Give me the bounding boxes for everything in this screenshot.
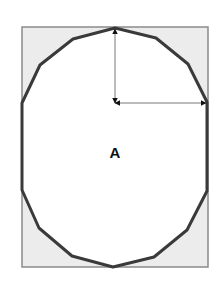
diagram-canvas: A (0, 0, 224, 288)
shape-label: A (110, 144, 121, 161)
